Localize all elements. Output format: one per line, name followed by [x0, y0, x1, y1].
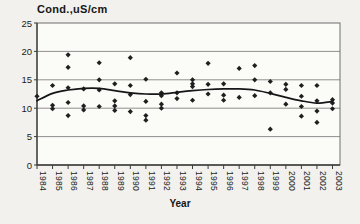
y-tick-label: 0: [27, 160, 32, 171]
y-tick-label: 10: [21, 103, 32, 114]
x-tick-label: 1992: [162, 171, 172, 191]
plot-area: 0510152025198419851986198719881989199019…: [0, 0, 360, 224]
x-tick-label: 2002: [318, 171, 328, 191]
x-tick-label: 1989: [116, 171, 126, 191]
x-tick-label: 1994: [194, 171, 204, 191]
x-tick-label: 1993: [178, 171, 188, 191]
x-tick-label: 1986: [69, 171, 79, 191]
x-tick-label: 1987: [85, 171, 95, 191]
x-tick-label: 1988: [100, 171, 110, 191]
y-tick-label: 25: [21, 18, 32, 29]
y-tick-label: 15: [21, 74, 32, 85]
x-tick-label: 1984: [38, 171, 48, 191]
chart-title: Cond.,uS/cm: [37, 3, 108, 15]
x-tick-label: 1985: [54, 171, 64, 191]
x-tick-label: 1998: [256, 171, 266, 191]
x-tick-label: 1999: [271, 171, 281, 191]
x-tick-label: 1996: [225, 171, 235, 191]
x-tick-label: 1995: [209, 171, 219, 191]
x-axis-title: Year: [30, 198, 330, 209]
x-tick-label: 2003: [334, 171, 344, 191]
x-tick-label: 1991: [147, 171, 157, 191]
x-tick-label: 2000: [287, 171, 297, 191]
x-tick-label: 1990: [131, 171, 141, 191]
x-tick-label: 1997: [240, 171, 250, 191]
plot-background: [37, 23, 340, 165]
y-tick-label: 5: [27, 131, 32, 142]
y-tick-label: 20: [21, 46, 32, 57]
chart-figure: 0510152025198419851986198719881989199019…: [0, 0, 360, 224]
x-tick-label: 2001: [302, 171, 312, 191]
